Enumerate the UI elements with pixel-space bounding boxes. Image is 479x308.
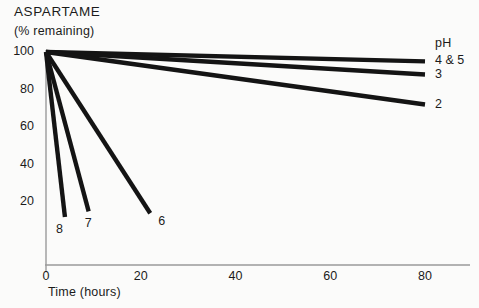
- x-tick-label: 80: [410, 270, 440, 283]
- series-label-ph-3: 3: [435, 68, 442, 81]
- plot-area: [0, 0, 479, 308]
- series-label-ph-8: 8: [56, 223, 63, 236]
- y-tick-label: 80: [4, 83, 34, 96]
- y-tick-label: 20: [4, 195, 34, 208]
- series-lines: [46, 52, 425, 217]
- series-label-ph-2: 2: [435, 98, 442, 111]
- series-label-ph-6: 6: [158, 215, 165, 228]
- x-tick-label: 40: [221, 270, 251, 283]
- aspartame-stability-chart: ASPARTAME (% remaining) 20406080100 0204…: [0, 0, 479, 308]
- y-tick-label: 40: [4, 158, 34, 171]
- series-line-ph-7: [46, 52, 89, 211]
- series-label-ph-45: 4 & 5: [435, 54, 464, 67]
- y-tick-label: 60: [4, 120, 34, 133]
- series-label-ph-7: 7: [85, 217, 92, 230]
- legend-title-ph: pH: [435, 37, 452, 50]
- y-tick-label: 100: [4, 45, 34, 58]
- x-tick-label: 60: [315, 270, 345, 283]
- x-tick-label: 0: [31, 270, 61, 283]
- x-axis-label: Time (hours): [48, 286, 121, 299]
- x-tick-label: 20: [126, 270, 156, 283]
